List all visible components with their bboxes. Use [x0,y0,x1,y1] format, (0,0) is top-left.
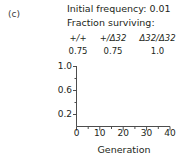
x-tick-label-10: 10 [94,128,105,138]
chart-plot-area: 1.0 0.6 0.2 0 10 20 30 40 Generation [0,0,182,164]
figure-panel-c: (c) Initial frequency: 0.01 Fraction sur… [0,0,182,164]
chart-axes-svg [0,0,182,164]
y-tick-label-1.0: 1.0 [48,61,72,71]
x-tick-label-20: 20 [117,128,128,138]
y-tick-label-0.6: 0.6 [48,85,72,95]
y-axis-ticks [73,67,77,115]
x-tick-label-30: 30 [141,128,152,138]
x-axis-title: Generation [76,144,172,155]
x-tick-label-40: 40 [164,128,175,138]
x-tick-label-0: 0 [74,128,80,138]
y-tick-label-0.2: 0.2 [48,109,72,119]
